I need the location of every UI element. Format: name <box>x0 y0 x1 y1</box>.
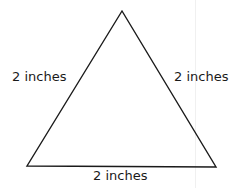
triangle-figure <box>0 0 241 188</box>
diagram-canvas: 2 inches 2 inches 2 inches <box>0 0 241 188</box>
right-side-label: 2 inches <box>174 70 228 83</box>
left-side-label: 2 inches <box>12 70 66 83</box>
triangle <box>27 11 216 167</box>
bottom-side-label: 2 inches <box>93 169 147 182</box>
